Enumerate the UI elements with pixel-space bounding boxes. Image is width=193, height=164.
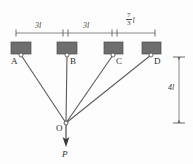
force-arrow-p: [63, 125, 70, 147]
support-block-d: [142, 42, 161, 57]
point-label-c: C: [116, 57, 122, 66]
vertical-dimension-line: [173, 57, 185, 123]
fraction-seven-thirds: 7 3: [126, 12, 132, 28]
dimension-label-cd: 7 3 l: [126, 13, 135, 29]
force-label-p: P: [62, 150, 68, 159]
cable-BO: [66, 55, 67, 123]
dimension-label-height: 4l: [168, 84, 174, 92]
fraction-unit: l: [132, 17, 135, 25]
fraction-denominator: 3: [126, 19, 132, 27]
dimension-label-bc: 3l: [83, 22, 89, 30]
support-block-b: [57, 42, 77, 57]
support-block-a: [11, 42, 31, 57]
point-label-o: O: [56, 124, 63, 133]
support-block-c: [104, 42, 123, 57]
cable-lines: [21, 55, 151, 123]
fraction-numerator: 7: [126, 12, 132, 19]
force-diagram: 3l 3l 7 3 l 4l A B C D O P: [0, 0, 193, 164]
cable-AO: [21, 55, 66, 123]
cable-DO: [66, 55, 151, 123]
point-label-b: B: [70, 57, 76, 66]
diagram-canvas: [0, 0, 193, 164]
junction-node-o: [64, 121, 68, 125]
dimension-label-ab: 3l: [35, 22, 41, 30]
horizontal-dimension-line: [16, 30, 155, 37]
point-label-a: A: [11, 57, 18, 66]
point-label-d: D: [154, 57, 161, 66]
